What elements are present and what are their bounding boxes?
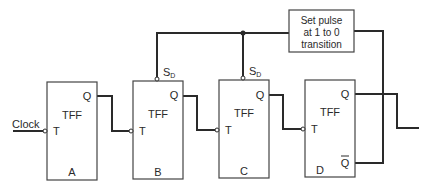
q-bar-output-label: Q xyxy=(341,157,350,169)
ff-id-label: C xyxy=(240,165,248,177)
wire-a-to-b xyxy=(97,96,131,131)
clock-inversion-bubble xyxy=(301,127,305,131)
wire-b-to-c xyxy=(183,96,217,130)
clock-label: Clock xyxy=(12,118,40,130)
flip-flop-a: TFF Q T A xyxy=(43,82,97,180)
flip-flop-c: TFF Q T C SD xyxy=(215,65,269,178)
wire-c-to-d xyxy=(269,95,303,129)
q-output-label: Q xyxy=(256,89,265,101)
ripple-counter-diagram: Set pulse at 1 to 0 transition Clock TFF… xyxy=(0,0,435,191)
qbar-feedback-wire xyxy=(354,31,383,163)
flip-flop-b: TFF Q T B SD xyxy=(129,66,183,179)
q-output-label: Q xyxy=(341,88,350,100)
set-pulse-line-1: Set pulse xyxy=(301,15,343,26)
ff-type-label: TFF xyxy=(148,108,168,120)
t-input-label: T xyxy=(311,123,318,135)
ff-id-label: D xyxy=(316,164,324,176)
preset-label: SD xyxy=(163,66,175,79)
set-pulse-box: Set pulse at 1 to 0 transition xyxy=(289,10,354,52)
clock-inversion-bubble xyxy=(129,129,133,133)
junction-dot xyxy=(241,31,246,36)
preset-inversion-bubble xyxy=(155,77,159,81)
ff-id-label: B xyxy=(154,166,161,178)
ff-id-label: A xyxy=(68,166,76,178)
t-input-label: T xyxy=(53,125,60,137)
t-input-label: T xyxy=(225,124,232,136)
output-wire xyxy=(355,94,419,128)
clock-inversion-bubble xyxy=(43,129,47,133)
t-input-label: T xyxy=(139,125,146,137)
ff-type-label: TFF xyxy=(234,107,254,119)
q-output-label: Q xyxy=(170,89,179,101)
q-output-label: Q xyxy=(83,90,92,102)
preset-label: SD xyxy=(249,65,261,78)
set-pulse-line-2: at 1 to 0 xyxy=(303,27,340,38)
preset-inversion-bubble xyxy=(241,76,245,80)
set-pulse-line-3: transition xyxy=(301,39,342,50)
ff-type-label: TFF xyxy=(62,109,82,121)
flip-flop-d: TFF Q T D Q xyxy=(301,80,355,177)
ff-type-label: TFF xyxy=(320,106,340,118)
clock-inversion-bubble xyxy=(215,128,219,132)
set-bus-wire xyxy=(157,33,289,79)
